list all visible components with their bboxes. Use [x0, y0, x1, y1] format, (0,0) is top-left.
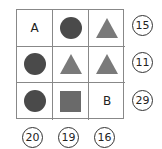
triangle-icon — [60, 54, 82, 74]
cell-r2-c1 — [17, 47, 53, 84]
cell-r3-c3: B — [89, 83, 125, 120]
cell-r1-c2 — [53, 10, 89, 47]
square-icon — [60, 91, 81, 112]
circle-icon — [24, 53, 46, 75]
triangle-icon — [96, 18, 118, 38]
row-sum-3: 29 — [132, 90, 153, 111]
cell-r1-c3 — [89, 10, 125, 47]
cell-r2-c2 — [53, 47, 89, 84]
cell-r2-c3 — [89, 47, 125, 84]
column-sum-2: 19 — [58, 127, 79, 148]
triangle-icon — [96, 54, 118, 74]
letter-b: B — [103, 94, 111, 108]
circle-icon — [24, 90, 46, 112]
column-sum-3: 16 — [94, 127, 115, 148]
circle-icon — [60, 17, 82, 39]
puzzle-grid: A B — [16, 9, 124, 119]
cell-r3-c2 — [53, 83, 89, 120]
row-sum-2: 11 — [132, 52, 153, 73]
letter-a: A — [30, 21, 38, 35]
column-sum-1: 20 — [22, 127, 43, 148]
cell-r1-c1: A — [17, 10, 53, 47]
row-sum-1: 15 — [132, 15, 153, 36]
cell-r3-c1 — [17, 83, 53, 120]
